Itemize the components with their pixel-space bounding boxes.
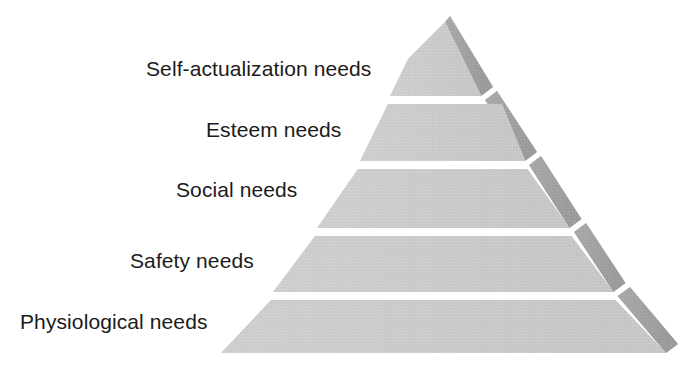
- tier-5-front-texture: [221, 300, 666, 353]
- divider-2: [358, 161, 529, 169]
- tier-label-safety-needs: Safety needs: [130, 249, 254, 273]
- tier-2-front-texture: [360, 104, 526, 161]
- tier-label-physiological-needs: Physiological needs: [20, 310, 208, 334]
- tier-label-social-needs: Social needs: [176, 178, 297, 202]
- divider-4: [271, 292, 618, 300]
- tier-4-front-texture: [273, 236, 614, 292]
- tier-3-front-texture: [317, 169, 570, 228]
- tier-label-self-actualization-needs: Self-actualization needs: [146, 57, 371, 81]
- divider-3: [315, 228, 574, 236]
- tier-label-esteem-needs: Esteem needs: [206, 118, 341, 142]
- maslow-pyramid-diagram: Self-actualization needs Esteem needs So…: [0, 0, 698, 367]
- divider-1: [388, 96, 485, 104]
